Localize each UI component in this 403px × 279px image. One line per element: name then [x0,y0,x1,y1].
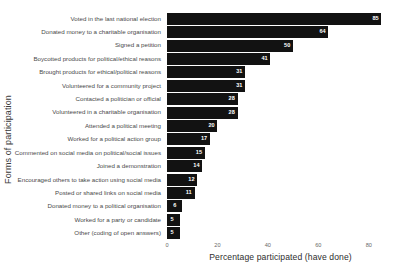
category-label-row: Commented on social media on political/s… [15,147,161,159]
category-label-row: Worked for a party or candidate [74,214,161,226]
bar-value-label: 20 [208,123,214,129]
category-label-row: Brought products for ethical/political r… [39,66,161,78]
bar-row: 17 [167,133,394,145]
bar [167,80,245,92]
category-label: Donated money to a political organisatio… [47,203,161,209]
category-label: Signed a petition [115,42,161,48]
bar-value-label: 64 [319,29,325,35]
bar [167,40,293,52]
bar-row: 11 [167,187,394,199]
bar-value-label: 17 [201,137,207,143]
bar-row: 14 [167,160,394,172]
y-axis-title: Forms of participation [0,0,16,279]
category-label-row: Contacted a politician or official [75,93,161,105]
bar-value-label: 28 [229,96,235,102]
bar-row: 5 [167,214,394,226]
bar-row: 28 [167,107,394,119]
bar-row: 85 [167,13,394,25]
category-label: Brought products for ethical/political r… [39,69,161,75]
x-tick-label: 80 [366,243,372,249]
category-label-row: Posted or shared links on social media [55,187,161,199]
bar-row: 15 [167,147,394,159]
category-label: Contacted a politician or official [75,96,161,102]
category-label-row: Signed a petition [115,40,161,52]
bar-row: 31 [167,80,394,92]
bar-row: 12 [167,174,394,186]
bar-row: 50 [167,40,394,52]
bar [167,26,328,38]
bar-row: 41 [167,53,394,65]
category-label: Worked for a party or candidate [74,217,161,223]
bar [167,66,245,78]
category-label-row: Other (coding of open answers) [74,227,161,239]
category-label: Posted or shared links on social media [55,190,161,196]
bar-value-label: 12 [188,177,194,183]
bar-row: 64 [167,26,394,38]
bar-value-label: 31 [236,70,242,76]
category-label-row: Volunteered for a community project [62,80,161,92]
bar-row: 31 [167,66,394,78]
bar-value-label: 28 [229,110,235,116]
category-label-row: Donated money to a charitable organisati… [41,26,161,38]
category-label: Attended a political meeting [85,123,161,129]
x-tick-label: 40 [265,243,271,249]
bar-chart: Forms of participation Voted in the last… [0,0,403,279]
bar [167,107,238,119]
category-label: Worked for a political action group [68,136,161,142]
bar [167,93,238,105]
bar-value-label: 85 [372,16,378,22]
bar-value-label: 6 [173,204,176,210]
bar [167,53,270,65]
category-label: Volunteered for a community project [62,83,161,89]
bar-row: 28 [167,93,394,105]
category-label: Donated money to a charitable organisati… [41,29,161,35]
plot-area: 8564504131312828201715141211655 [167,12,394,240]
category-label: Boycotted products for political/ethical… [33,56,161,62]
category-label-row: Volunteered in a charitable organisation [52,107,161,119]
x-axis-title: Percentage participated (have done) [167,252,394,262]
category-label: Volunteered in a charitable organisation [52,109,161,115]
bar-row: 6 [167,200,394,212]
category-label-row: Attended a political meeting [85,120,161,132]
x-tick-label: 0 [165,243,168,249]
bar-value-label: 41 [261,56,267,62]
category-label: Commented on social media on political/s… [15,150,161,156]
bar-value-label: 14 [193,163,199,169]
bar-value-label: 11 [186,190,192,196]
category-label-row: Donated money to a political organisatio… [47,200,161,212]
category-label-row: Worked for a political action group [68,133,161,145]
category-label-row: Joined a demonstration [97,160,161,172]
category-label: Voted in the last national election [71,16,161,22]
category-label-row: Encouraged others to take action using s… [18,174,161,186]
bar-value-label: 50 [284,43,290,49]
bar-value-label: 5 [171,230,174,236]
category-label: Encouraged others to take action using s… [18,177,161,183]
x-tick-label: 20 [214,243,220,249]
bar-value-label: 5 [171,217,174,223]
bar [167,13,381,25]
category-label: Other (coding of open answers) [74,230,161,236]
bar-value-label: 15 [196,150,202,156]
category-label-row: Voted in the last national election [71,13,161,25]
bar-row: 20 [167,120,394,132]
category-label-column: Voted in the last national electionDonat… [18,12,164,240]
bar-value-label: 31 [236,83,242,89]
category-label-row: Boycotted products for political/ethical… [33,53,161,65]
category-label: Joined a demonstration [97,163,161,169]
bar-row: 5 [167,227,394,239]
x-tick-label: 60 [315,243,321,249]
